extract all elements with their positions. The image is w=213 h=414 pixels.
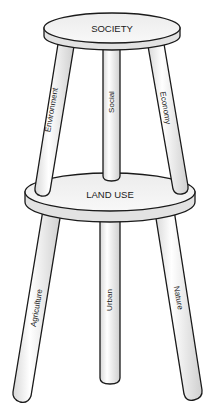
- bottom-leg-middle: Urban: [100, 212, 120, 384]
- top-leg-right: Economy: [148, 44, 188, 194]
- bottom-seat-label: LAND USE: [86, 189, 134, 200]
- top-leg-left: Environment: [35, 44, 74, 196]
- stool-diagram: Agriculture Urban Nature LAND USE Enviro…: [0, 0, 213, 414]
- bottom-leg-right: Nature: [155, 210, 202, 400]
- top-seat: SOCIETY: [44, 13, 180, 50]
- bottom-leg-left: Agriculture: [13, 210, 61, 402]
- bottom-leg-middle-label: Urban: [105, 289, 114, 311]
- top-leg-middle: Social: [103, 48, 120, 181]
- top-leg-middle-label: Social: [107, 91, 116, 113]
- top-seat-label: SOCIETY: [91, 23, 133, 34]
